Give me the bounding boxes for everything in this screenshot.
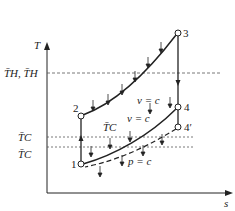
point-4prime-label: 4′ xyxy=(184,121,192,133)
point-4-label: 4 xyxy=(184,101,190,113)
s-axis-label: s xyxy=(224,197,228,209)
p-const-label: p = c xyxy=(127,155,151,167)
t-axis-label: T xyxy=(34,39,41,51)
tc-lower-label: T̄C xyxy=(18,148,32,160)
th-label: T̄H, T̄H xyxy=(4,67,39,79)
ts-diagram: T s T̄H, T̄H T̄C T̄C T̄C 1 2 3 4 4′ v = … xyxy=(0,0,235,211)
point-4 xyxy=(175,104,181,110)
tc-upper-label: T̄C xyxy=(18,131,32,143)
point-2 xyxy=(78,113,84,119)
mean-tc-label: T̄C xyxy=(103,121,117,133)
point-2-label: 2 xyxy=(73,102,79,114)
point-3-label: 3 xyxy=(183,27,189,39)
v-const-lower-label: v = c xyxy=(127,112,150,124)
point-4prime xyxy=(175,124,181,130)
point-3 xyxy=(175,30,181,36)
point-1 xyxy=(78,161,84,167)
point-1-label: 1 xyxy=(71,158,77,170)
state-points xyxy=(78,30,181,167)
process-2-3 xyxy=(83,35,176,115)
v-const-upper-label: v = c xyxy=(137,94,160,106)
